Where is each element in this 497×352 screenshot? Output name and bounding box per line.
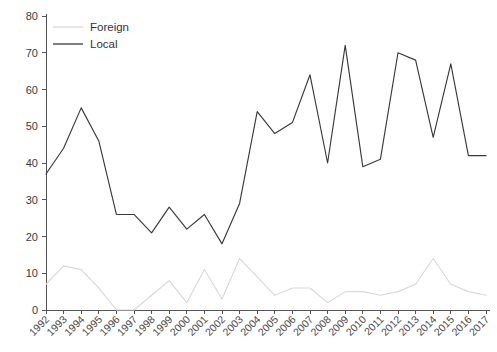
x-tick-label: 2017 <box>466 313 491 338</box>
y-axis: 01020304050607080 <box>26 10 46 316</box>
y-tick-label: 70 <box>26 47 38 59</box>
y-tick-label: 80 <box>26 10 38 22</box>
y-tick-label: 40 <box>26 157 38 169</box>
y-tick-label: 20 <box>26 231 38 243</box>
x-axis: 1992199319941995199619971998199920002001… <box>26 310 491 338</box>
y-tick-label: 50 <box>26 120 38 132</box>
chart-canvas: 0102030405060708019921993199419951996199… <box>0 0 497 352</box>
legend-label-local: Local <box>90 38 118 50</box>
line-chart: 0102030405060708019921993199419951996199… <box>0 0 497 352</box>
y-tick-label: 30 <box>26 194 38 206</box>
series-line-local <box>46 45 486 243</box>
y-tick-label: 10 <box>26 267 38 279</box>
legend-label-foreign: Foreign <box>90 21 129 33</box>
series-group <box>46 45 486 310</box>
chart-legend: ForeignLocal <box>53 21 129 50</box>
series-line-foreign <box>46 259 486 310</box>
y-tick-label: 0 <box>32 304 38 316</box>
y-tick-label: 60 <box>26 84 38 96</box>
